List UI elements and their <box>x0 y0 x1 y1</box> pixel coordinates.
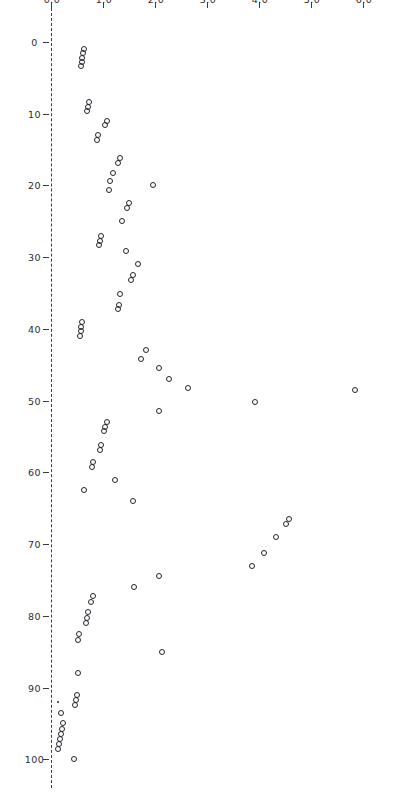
data-point <box>71 756 77 762</box>
y-axis-line <box>51 8 52 788</box>
data-point <box>55 746 61 752</box>
data-point <box>115 306 121 312</box>
data-point <box>110 170 116 176</box>
x-axis-tick-label: 100 <box>25 754 44 765</box>
y-axis-tick-label: 2.0 <box>148 0 164 5</box>
data-point <box>101 428 107 434</box>
x-axis-tick-label: 40 <box>28 323 41 334</box>
data-point <box>156 365 162 371</box>
data-point <box>102 122 108 128</box>
data-point <box>72 702 78 708</box>
data-point-small <box>57 701 60 704</box>
data-point <box>159 649 165 655</box>
x-axis-tick-label: 10 <box>28 108 41 119</box>
rotated-figure-canvas: 01020304050607080901000.01.02.03.04.05.0… <box>0 0 401 802</box>
data-point <box>90 593 96 599</box>
x-axis-tick-label: 80 <box>28 610 41 621</box>
x-axis-tick <box>43 185 49 186</box>
data-point <box>84 108 90 114</box>
data-point <box>78 63 84 69</box>
data-point <box>94 137 100 143</box>
data-point <box>89 464 95 470</box>
x-axis-tick <box>43 544 49 545</box>
x-axis-tick <box>43 42 49 43</box>
x-axis-tick <box>43 257 49 258</box>
data-point <box>128 277 134 283</box>
data-point <box>252 399 258 405</box>
x-axis-tick <box>43 329 49 330</box>
data-point <box>88 599 94 605</box>
x-axis-tick-label: 20 <box>28 180 41 191</box>
y-axis-tick-label: 4.0 <box>252 0 268 5</box>
y-axis-tick-label: 1.0 <box>96 0 112 5</box>
data-point <box>115 160 121 166</box>
x-axis-tick-label: 70 <box>28 539 41 550</box>
x-axis-tick-label: 60 <box>28 467 41 478</box>
data-point <box>135 261 141 267</box>
data-point <box>81 487 87 493</box>
data-point <box>77 333 83 339</box>
y-axis-tick-label: 3.0 <box>200 0 216 5</box>
data-point <box>283 521 289 527</box>
x-axis-tick <box>43 472 49 473</box>
data-point <box>119 218 125 224</box>
data-point <box>130 498 136 504</box>
data-point-outlier <box>352 387 358 393</box>
data-point <box>112 477 118 483</box>
data-point <box>156 573 162 579</box>
data-point <box>58 710 64 716</box>
plot-area: 01020304050607080901000.01.02.03.04.05.0… <box>0 0 401 802</box>
data-point <box>139 356 145 362</box>
y-axis-tick-label: 0.0 <box>44 0 60 5</box>
data-point <box>96 242 102 248</box>
data-point <box>150 182 156 188</box>
x-axis-tick <box>43 616 49 617</box>
x-axis-tick-label: 50 <box>28 395 41 406</box>
data-point <box>76 631 82 637</box>
data-point <box>124 205 130 211</box>
data-point <box>97 447 103 453</box>
data-point <box>117 291 123 297</box>
data-point <box>131 584 137 590</box>
y-axis-tick-label: 5.0 <box>304 0 320 5</box>
x-axis-tick-label: 30 <box>28 252 41 263</box>
data-point <box>143 347 149 353</box>
scatter-plot-figure: 01020304050607080901000.01.02.03.04.05.0… <box>0 0 401 802</box>
data-point <box>75 670 81 676</box>
data-point <box>75 637 81 643</box>
data-point <box>107 178 113 184</box>
x-axis-tick <box>43 114 49 115</box>
x-axis-tick-label: 0 <box>31 37 37 48</box>
data-point <box>185 385 191 391</box>
data-point <box>273 534 279 540</box>
data-point <box>261 550 267 556</box>
data-point <box>83 620 89 626</box>
data-point <box>123 248 129 254</box>
x-axis-tick-label: 90 <box>28 682 41 693</box>
x-axis-tick <box>43 688 49 689</box>
data-point <box>106 187 112 193</box>
data-point <box>249 563 255 569</box>
y-axis-tick-label: 6.0 <box>356 0 372 5</box>
x-axis-tick <box>43 401 49 402</box>
data-point <box>166 376 172 382</box>
data-point <box>156 408 162 414</box>
